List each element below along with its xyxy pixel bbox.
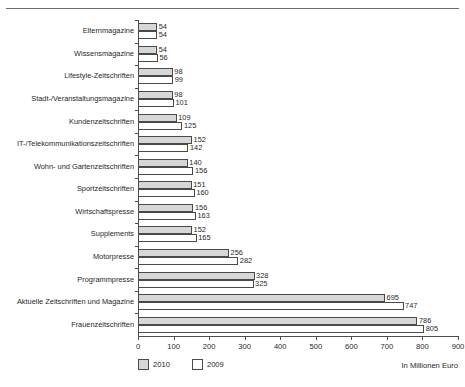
category-label: Elternmagazine: [83, 27, 134, 35]
category-label: Kundenzeitschriften: [69, 118, 134, 126]
category-label: Motorpresse: [93, 253, 134, 261]
bar-group: Motorpresse256282: [138, 246, 458, 269]
legend-item-2009[interactable]: 2009: [192, 359, 224, 370]
x-axis-tick: [245, 336, 246, 340]
y-axis-tick: [135, 201, 139, 202]
bar-2009: 163: [138, 212, 196, 220]
x-axis-tick-label: 300: [238, 342, 251, 351]
y-axis-tick: [135, 178, 139, 179]
bar-group: Supplements152165: [138, 223, 458, 246]
bar-value-label: 165: [198, 235, 210, 242]
legend-label: 2009: [207, 360, 224, 369]
bar-value-label: 747: [405, 302, 417, 309]
category-label: Lifestyle-Zeitschriften: [64, 73, 134, 81]
bar-group: IT-/Telekommunikationszeitschriften15214…: [138, 133, 458, 156]
bar-2010: 256: [138, 249, 229, 257]
bar-2010: 151: [138, 181, 192, 189]
bar-group: Stadt-/Veranstaltungsmagazine98101: [138, 88, 458, 111]
bar-value-label: 156: [195, 167, 207, 174]
x-axis-tick-label: 800: [416, 342, 429, 351]
cropped-header-artifact: · · · · ·: [0, 0, 465, 7]
x-axis-tick-label: 500: [309, 342, 322, 351]
bar-2009: 56: [138, 54, 158, 62]
bar-2009: 99: [138, 76, 173, 84]
y-axis-tick: [135, 246, 139, 247]
category-label: Stadt-/Veranstaltungsmagazine: [31, 95, 134, 103]
y-axis-tick: [135, 313, 139, 314]
bar-value-label: 56: [159, 54, 167, 61]
x-axis-tick: [458, 336, 459, 340]
bar-group: Wirtschaftspresse156163: [138, 201, 458, 224]
category-label: Supplements: [91, 231, 134, 239]
bar-2010: 109: [138, 114, 177, 122]
bar-2010: 152: [138, 136, 192, 144]
category-label: Wissensmagazine: [74, 50, 134, 58]
bar-value-label: 163: [197, 212, 209, 219]
x-axis-tick-label: 700: [381, 342, 394, 351]
bar-2010: 328: [138, 272, 255, 280]
x-axis-tick: [138, 336, 139, 340]
bar-2009: 125: [138, 122, 182, 130]
x-axis-unit-label: In Millionen Euro: [401, 361, 458, 370]
bar-value-label: 125: [184, 122, 196, 129]
bar-2010: 156: [138, 204, 193, 212]
bar-value-label: 695: [387, 294, 399, 301]
y-axis-tick: [135, 88, 139, 89]
y-axis-tick: [135, 268, 139, 269]
bar-group: Wohn- und Gartenzeitschriften140156: [138, 155, 458, 178]
bar-2009: 747: [138, 302, 404, 310]
y-axis-tick: [135, 133, 139, 134]
bar-2009: 165: [138, 234, 197, 242]
x-axis-tick: [387, 336, 388, 340]
legend-swatch-icon: [192, 359, 203, 370]
bar-2009: 142: [138, 144, 188, 152]
bar-value-label: 805: [426, 325, 438, 332]
y-axis-tick: [135, 20, 139, 21]
y-axis-tick: [135, 155, 139, 156]
x-axis-line: [138, 336, 458, 337]
bar-2010: 786: [138, 317, 417, 325]
bar-group: Elternmagazine5454: [138, 20, 458, 43]
category-label: IT-/Telekommunikationszeitschriften: [17, 140, 134, 148]
legend-item-2010[interactable]: 2010: [138, 359, 170, 370]
bar-group: Wissensmagazine5456: [138, 43, 458, 66]
bar-2009: 805: [138, 325, 424, 333]
bar-value-label: 282: [240, 257, 252, 264]
bar-2009: 54: [138, 31, 157, 39]
x-axis-tick-label: 600: [345, 342, 358, 351]
bar-group: Kundenzeitschriften109125: [138, 110, 458, 133]
category-label: Sportzeitschriften: [77, 185, 134, 193]
bar-group: Programmpresse328325: [138, 268, 458, 291]
bar-group: Lifestyle-Zeitschriften9899: [138, 65, 458, 88]
bar-2009: 282: [138, 257, 238, 265]
chart-legend: 20102009: [138, 359, 224, 370]
bar-chart: Elternmagazine5454Wissensmagazine5456Lif…: [0, 14, 465, 387]
bar-value-label: 325: [255, 280, 267, 287]
category-label: Wirtschaftspresse: [75, 208, 134, 216]
bar-value-label: 54: [159, 32, 167, 39]
bar-value-label: 142: [190, 144, 202, 151]
bar-2010: 152: [138, 226, 192, 234]
x-axis-tick-label: 400: [274, 342, 287, 351]
x-axis-tick: [174, 336, 175, 340]
legend-label: 2010: [153, 360, 170, 369]
bar-2009: 101: [138, 99, 174, 107]
bar-2010: 54: [138, 23, 157, 31]
y-axis-tick: [135, 43, 139, 44]
category-label: Aktuelle Zeitschriften und Magazine: [17, 298, 134, 306]
x-axis-tick: [422, 336, 423, 340]
legend-swatch-icon: [138, 359, 149, 370]
y-axis-tick: [135, 110, 139, 111]
x-axis-tick-label: 900: [452, 342, 465, 351]
x-axis-tick: [316, 336, 317, 340]
category-label: Wohn- und Gartenzeitschriften: [34, 163, 134, 171]
bar-2010: 54: [138, 46, 157, 54]
y-axis-tick: [135, 223, 139, 224]
bar-2009: 156: [138, 167, 193, 175]
bar-group: Frauenzeitschriften786805: [138, 313, 458, 336]
plot-area: Elternmagazine5454Wissensmagazine5456Lif…: [138, 20, 458, 336]
bar-group: Aktuelle Zeitschriften und Magazine69574…: [138, 291, 458, 314]
x-axis-tick: [209, 336, 210, 340]
bar-2009: 160: [138, 189, 195, 197]
x-axis-tick-label: 0: [136, 342, 140, 351]
